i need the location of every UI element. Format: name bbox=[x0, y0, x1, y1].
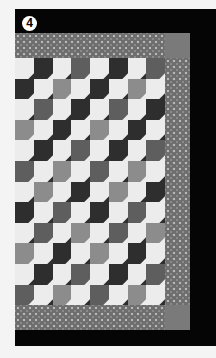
quilt-patch bbox=[71, 223, 90, 244]
quilt-patch bbox=[109, 223, 128, 244]
quilt-patch bbox=[109, 99, 128, 120]
quilt-patch bbox=[34, 161, 53, 182]
quilt-right-border bbox=[165, 58, 190, 305]
quilt-patch bbox=[128, 285, 147, 305]
quilt-patch bbox=[15, 285, 34, 305]
quilt-patch bbox=[53, 202, 72, 223]
quilt-patch bbox=[34, 223, 53, 244]
quilt-patch bbox=[109, 58, 128, 79]
quilt-patch bbox=[146, 79, 165, 100]
quilt-patch bbox=[90, 182, 109, 203]
quilt-patch bbox=[15, 58, 34, 79]
quilt-patch bbox=[71, 285, 90, 305]
quilt-bottom-border bbox=[15, 305, 165, 330]
quilt-patch bbox=[90, 58, 109, 79]
quilt-patch bbox=[90, 79, 109, 100]
quilt-patch bbox=[128, 264, 147, 285]
quilt-patch bbox=[34, 243, 53, 264]
quilt-patch bbox=[128, 58, 147, 79]
quilt-patch bbox=[128, 99, 147, 120]
quilt-patch bbox=[146, 58, 165, 79]
bow-tie-patchwork bbox=[15, 58, 165, 305]
quilt-patch bbox=[71, 99, 90, 120]
quilt-patch bbox=[90, 161, 109, 182]
quilt-patch bbox=[109, 161, 128, 182]
quilt-patch bbox=[109, 285, 128, 305]
quilt-patch bbox=[15, 243, 34, 264]
quilt-patch bbox=[34, 120, 53, 141]
step-number-badge: 4 bbox=[22, 16, 37, 31]
quilt-patch bbox=[71, 120, 90, 141]
quilt-patch bbox=[71, 202, 90, 223]
quilt-patch bbox=[53, 243, 72, 264]
quilt-patch bbox=[34, 202, 53, 223]
quilt-patch bbox=[90, 264, 109, 285]
quilt-patch bbox=[34, 285, 53, 305]
quilt-corner-square-bottom-right bbox=[165, 305, 190, 330]
quilt-patch bbox=[71, 140, 90, 161]
quilt-patch bbox=[146, 182, 165, 203]
quilt-patch bbox=[71, 264, 90, 285]
quilt-patch bbox=[90, 243, 109, 264]
quilt-patch bbox=[53, 161, 72, 182]
quilt-patch bbox=[71, 243, 90, 264]
quilt-patch bbox=[15, 182, 34, 203]
quilt-patch bbox=[53, 264, 72, 285]
quilt-patch bbox=[109, 182, 128, 203]
quilt-patch bbox=[128, 120, 147, 141]
quilt-patch bbox=[146, 140, 165, 161]
quilt-patch bbox=[90, 202, 109, 223]
quilt-patch bbox=[53, 99, 72, 120]
quilt-patch bbox=[128, 243, 147, 264]
quilt-patch bbox=[71, 58, 90, 79]
quilt-patch bbox=[109, 140, 128, 161]
quilt-corner-square-top-right bbox=[165, 33, 190, 58]
quilt-patch bbox=[146, 223, 165, 244]
quilt-patch bbox=[53, 140, 72, 161]
quilt-patch bbox=[34, 182, 53, 203]
quilt-patch bbox=[34, 79, 53, 100]
quilt-patch bbox=[34, 264, 53, 285]
quilt-patch bbox=[15, 99, 34, 120]
quilt-patch bbox=[71, 182, 90, 203]
quilt-patch bbox=[71, 161, 90, 182]
quilt-patch bbox=[109, 79, 128, 100]
quilt-patch bbox=[53, 58, 72, 79]
quilt-patch bbox=[128, 202, 147, 223]
quilt-patch bbox=[109, 264, 128, 285]
quilt-patch bbox=[146, 243, 165, 264]
quilt-patch bbox=[109, 202, 128, 223]
quilt-patch bbox=[90, 223, 109, 244]
quilt-patch bbox=[128, 79, 147, 100]
quilt-photo: 4 bbox=[15, 9, 216, 346]
quilt-patch bbox=[146, 264, 165, 285]
quilt-patch bbox=[90, 99, 109, 120]
quilt-patch bbox=[90, 140, 109, 161]
quilt-patch bbox=[15, 79, 34, 100]
quilt-patch bbox=[146, 161, 165, 182]
quilt-patch bbox=[15, 140, 34, 161]
quilt-patch bbox=[15, 120, 34, 141]
quilt-patch bbox=[34, 140, 53, 161]
quilt-patch bbox=[128, 223, 147, 244]
quilt-patch bbox=[109, 243, 128, 264]
quilt-patch bbox=[53, 120, 72, 141]
quilt-patch bbox=[128, 161, 147, 182]
quilt-patch bbox=[90, 285, 109, 305]
quilt-patch bbox=[53, 285, 72, 305]
quilt-patch bbox=[128, 182, 147, 203]
quilt-patch bbox=[15, 202, 34, 223]
quilt-patch bbox=[53, 223, 72, 244]
quilt-patch bbox=[71, 79, 90, 100]
quilt-patch bbox=[53, 79, 72, 100]
quilt-patch bbox=[15, 223, 34, 244]
quilt-patch bbox=[15, 264, 34, 285]
quilt-patch bbox=[53, 182, 72, 203]
quilt-patch bbox=[15, 161, 34, 182]
quilt-patch bbox=[146, 120, 165, 141]
quilt-patch bbox=[146, 285, 165, 305]
quilt-patch bbox=[128, 140, 147, 161]
quilt-patch bbox=[109, 120, 128, 141]
quilt-patch bbox=[146, 202, 165, 223]
quilt-patch bbox=[146, 99, 165, 120]
